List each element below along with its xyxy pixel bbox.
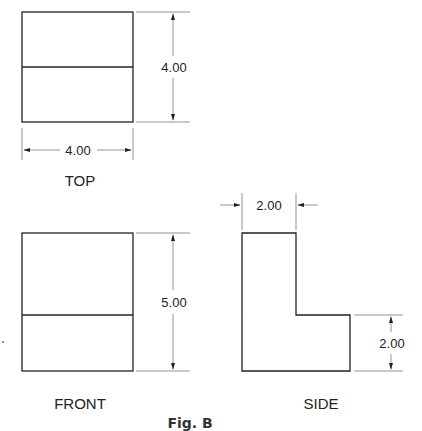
top-depth-dimension: 4.00 xyxy=(161,60,186,75)
side-view xyxy=(220,193,403,371)
stray-dot xyxy=(2,341,4,343)
side-top-width-dimension: 2.00 xyxy=(256,198,281,213)
side-step-height-dimension: 2.00 xyxy=(379,336,404,351)
top-view xyxy=(22,12,190,160)
front-view-label: FRONT xyxy=(54,395,106,412)
side-view-label: SIDE xyxy=(303,395,338,412)
figure-caption: Fig. B xyxy=(167,415,212,431)
orthographic-drawing: 4.00 4.00 TOP 5.00 FRONT 2.00 2.00 SIDE … xyxy=(0,0,422,431)
top-width-dimension: 4.00 xyxy=(65,143,90,158)
top-view-label: TOP xyxy=(65,172,96,189)
front-height-dimension: 5.00 xyxy=(161,295,186,310)
